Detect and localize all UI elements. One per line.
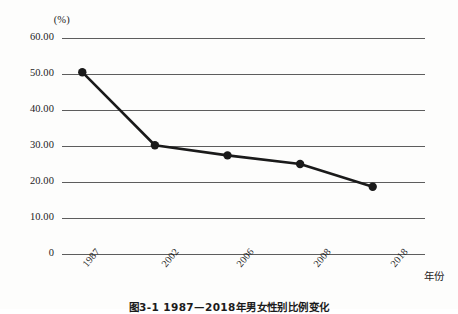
y-tick-label-50: 50.00 <box>0 67 54 78</box>
y-tick-label-30: 30.00 <box>0 139 54 150</box>
gridline-10 <box>62 218 425 219</box>
y-axis-unit-label: (%) <box>24 14 70 25</box>
x-axis-title: 年份 <box>424 268 444 283</box>
gridline-40 <box>62 110 425 111</box>
gridline-60 <box>62 38 425 39</box>
y-tick-label-10: 10.00 <box>0 211 54 222</box>
gridline-30 <box>62 146 425 147</box>
plot-area <box>62 38 425 254</box>
gridline-50 <box>62 74 425 75</box>
gridline-20 <box>62 182 425 183</box>
y-tick-label-0: 0 <box>0 247 54 258</box>
y-tick-label-20: 20.00 <box>0 175 54 186</box>
y-tick-label-40: 40.00 <box>0 103 54 114</box>
y-tick-label-60: 60.00 <box>0 31 54 42</box>
figure-caption: 图3-1 1987—2018年男女性别比例变化 <box>0 299 458 314</box>
